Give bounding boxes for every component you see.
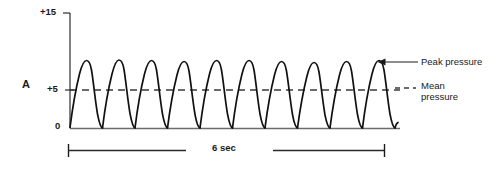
arrow-left-icon <box>378 59 419 66</box>
mean-pressure-annotation-line2: pressure <box>421 91 458 102</box>
peak-pressure-annotation: Peak pressure <box>421 57 482 68</box>
y-axis-tick-label-zero: 0 <box>55 121 60 132</box>
y-axis-tick-label-mid: +5 <box>47 84 58 95</box>
pressure-trace <box>70 60 398 128</box>
panel-label: A <box>22 78 30 90</box>
mean-pressure-annotation: Meanpressure <box>421 81 458 102</box>
y-axis-tick-label-top: +15 <box>40 7 56 18</box>
time-scale-label: 6 sec <box>212 143 236 154</box>
mean-pressure-annotation-line1: Mean <box>421 80 445 91</box>
figure-panel: A +15 +5 0 Peak pressure Meanpressure 6 … <box>0 0 504 171</box>
